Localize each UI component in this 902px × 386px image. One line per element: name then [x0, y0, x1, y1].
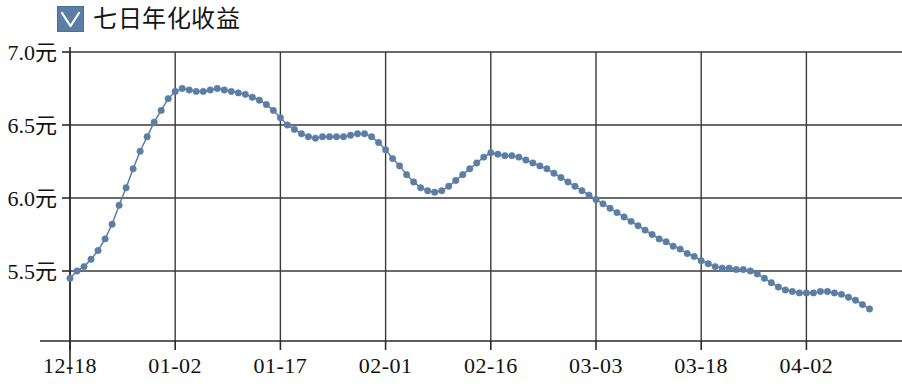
svg-text:6.0元: 6.0元: [8, 186, 58, 211]
y-axis-labels: 7.0元6.5元6.0元5.5元: [8, 40, 58, 284]
svg-text:03-18: 03-18: [674, 353, 728, 378]
axis-ticks: [62, 52, 806, 350]
svg-text:03-03: 03-03: [569, 353, 623, 378]
svg-text:12-18: 12-18: [43, 353, 97, 378]
svg-text:02-01: 02-01: [359, 353, 413, 378]
svg-text:02-16: 02-16: [464, 353, 518, 378]
svg-text:5.5元: 5.5元: [8, 259, 58, 284]
svg-text:01-02: 01-02: [148, 353, 202, 378]
x-axis-labels: 12-1801-0201-1702-0102-1603-0303-1804-02: [43, 353, 833, 378]
svg-text:6.5元: 6.5元: [8, 113, 58, 138]
gridlines: [70, 52, 902, 341]
svg-text:7.0元: 7.0元: [8, 40, 58, 65]
svg-text:04-02: 04-02: [779, 353, 833, 378]
svg-text:01-17: 01-17: [253, 353, 307, 378]
data-series-seven-day-annualized-yield: [67, 85, 873, 312]
seven-day-annualized-yield-chart: 七日年化收益 7.0元6.5元6.0元5.5元 12-1801-0201-170…: [0, 0, 902, 386]
plot-area: 7.0元6.5元6.0元5.5元 12-1801-0201-1702-0102-…: [0, 0, 902, 386]
